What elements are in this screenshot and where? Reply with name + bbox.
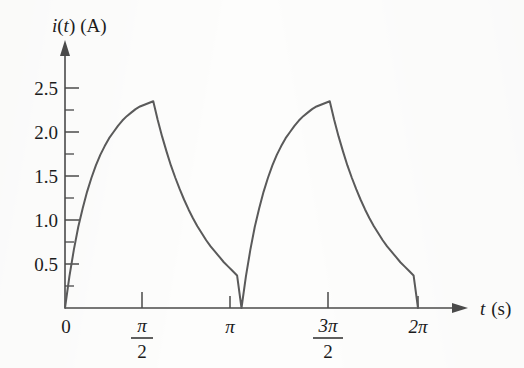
x-tick-pi-over-2-denominator: 2 <box>137 341 147 362</box>
x-tick-3pi-over-2-numerator: 3π <box>317 315 338 336</box>
x-tick-labels: 0 π 2 π 3π 2 2π <box>61 315 428 362</box>
x-axis <box>65 303 468 313</box>
x-axis-title-symbol: t <box>480 298 486 319</box>
y-tick-label-1.0: 1.0 <box>34 210 58 231</box>
current-waveform-figure: 2.5 2.0 1.5 1.0 0.5 0 π 2 π 3π 2 <box>0 0 524 368</box>
x-tick-label-pi: π <box>225 316 235 337</box>
x-tick-label-pi-over-2: π 2 <box>131 315 153 362</box>
y-tick-labels: 2.5 2.0 1.5 1.0 0.5 <box>34 78 58 275</box>
x-tick-label-zero: 0 <box>61 316 71 337</box>
x-axis-title-unit: (s) <box>491 298 511 320</box>
current-waveform-curve <box>65 101 418 308</box>
x-axis-title: t(s) <box>480 298 511 320</box>
y-tick-label-1.5: 1.5 <box>34 166 58 187</box>
y-axis-title-paren-close: ) <box>69 15 75 37</box>
y-axis-title: i(t)(A) <box>52 15 107 37</box>
y-tick-label-0.5: 0.5 <box>34 254 58 275</box>
x-tick-label-2pi: 2π <box>408 316 428 337</box>
axis-titles: i(t)(A) t(s) <box>52 15 511 320</box>
x-tick-pi-over-2-numerator: π <box>137 315 147 336</box>
x-tick-label-3pi-over-2: 3π 2 <box>313 315 343 362</box>
x-tick-3pi-over-2-denominator: 2 <box>323 341 333 362</box>
y-tick-label-2.0: 2.0 <box>34 122 58 143</box>
y-axis <box>60 40 70 308</box>
x-axis-ticks <box>142 292 418 308</box>
y-tick-label-2.5: 2.5 <box>34 78 58 99</box>
y-axis-title-unit: (A) <box>80 15 106 37</box>
chart-canvas: 2.5 2.0 1.5 1.0 0.5 0 π 2 π 3π 2 <box>0 0 524 368</box>
y-axis-arrowhead <box>60 40 70 56</box>
x-axis-arrowhead <box>452 303 468 313</box>
